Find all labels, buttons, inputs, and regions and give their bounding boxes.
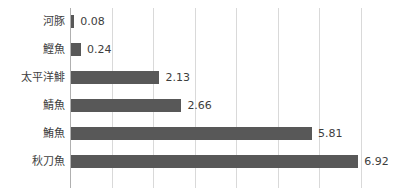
bar-value-label: 2.66 <box>187 92 212 120</box>
bar[interactable] <box>71 99 181 112</box>
category-label: 太平洋鯡 <box>21 64 65 92</box>
bar-track: 2.66 <box>71 92 399 120</box>
category-label: 秋刀魚 <box>32 148 65 176</box>
bar-value-label: 0.08 <box>80 8 105 36</box>
bar-value-label: 5.81 <box>318 120 343 148</box>
bar-track: 5.81 <box>71 120 399 148</box>
bar-row: 鰹魚0.24 <box>0 36 399 64</box>
bar-row: 太平洋鯡2.13 <box>0 64 399 92</box>
bar-chart: 河豚0.08鰹魚0.24太平洋鯡2.13鯖魚2.66鮪魚5.81秋刀魚6.92 <box>0 0 399 193</box>
bar-row: 秋刀魚6.92 <box>0 148 399 176</box>
bar-track: 2.13 <box>71 64 399 92</box>
bar-row: 鮪魚5.81 <box>0 120 399 148</box>
bar[interactable] <box>71 71 159 84</box>
bar[interactable] <box>71 127 312 140</box>
bar-row: 河豚0.08 <box>0 8 399 36</box>
category-label: 鰹魚 <box>43 36 65 64</box>
bar-track: 0.08 <box>71 8 399 36</box>
bar-value-label: 6.92 <box>364 148 389 176</box>
bar[interactable] <box>71 43 81 56</box>
bar-track: 0.24 <box>71 36 399 64</box>
bar[interactable] <box>71 155 358 168</box>
category-label: 河豚 <box>43 8 65 36</box>
bar-row: 鯖魚2.66 <box>0 92 399 120</box>
category-label: 鯖魚 <box>43 92 65 120</box>
bar-rows: 河豚0.08鰹魚0.24太平洋鯡2.13鯖魚2.66鮪魚5.81秋刀魚6.92 <box>0 8 399 188</box>
bar[interactable] <box>71 15 74 28</box>
bar-track: 6.92 <box>71 148 399 176</box>
bar-value-label: 2.13 <box>165 64 190 92</box>
category-label: 鮪魚 <box>43 120 65 148</box>
bar-value-label: 0.24 <box>87 36 112 64</box>
